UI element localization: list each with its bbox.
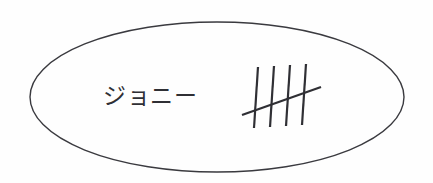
tally-mark-3 [286,65,290,126]
ellipse-outline [30,22,404,172]
tally-mark-2 [270,66,274,127]
name-label: ジョニー [103,83,197,109]
annotation-drawing: ジョニー [0,0,433,183]
tally-group [242,64,321,128]
tally-mark-1 [254,67,258,128]
tally-mark-diagonal [242,87,321,115]
annotation-canvas: ジョニー [0,0,433,183]
